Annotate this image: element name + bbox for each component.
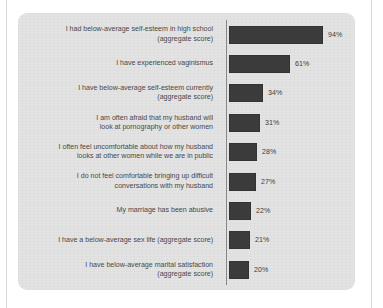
bar-value-label: 61%	[295, 60, 309, 68]
bar-row: I have a below-average sex life (aggrega…	[18, 226, 355, 255]
bar-value-label: 94%	[328, 31, 342, 39]
bar-container: 31%	[220, 108, 355, 137]
bar-container: 61%	[220, 49, 355, 78]
category-label: I am often afraid that my husband will l…	[18, 114, 220, 132]
bar-value-label: 21%	[255, 236, 269, 244]
page-border-right	[371, 0, 372, 308]
bar-value-label: 22%	[256, 207, 270, 215]
category-label: My marriage has been abusive	[18, 206, 220, 215]
bar-row: I have experienced vaginismus 61%	[18, 49, 355, 78]
bar-container: 22%	[220, 196, 355, 225]
category-label: I do not feel comfortable bringing up di…	[18, 172, 220, 190]
bar-value-label: 27%	[261, 178, 275, 186]
bar-row: My marriage has been abusive 22%	[18, 196, 355, 225]
bar-value-label: 34%	[268, 89, 282, 97]
bar-segment	[229, 202, 251, 220]
page-background: I had below-average self-esteem in high …	[0, 0, 383, 308]
category-label: I have a below-average sex life (aggrega…	[18, 236, 220, 245]
bar-row: I have below-average self-esteem current…	[18, 79, 355, 108]
page-border-left	[6, 0, 7, 308]
bar-segment	[229, 173, 256, 191]
category-label: I have below-average marital satisfactio…	[18, 261, 220, 279]
bar-rows: I had below-average self-esteem in high …	[18, 20, 355, 285]
category-label: I had below-average self-esteem in high …	[18, 25, 220, 43]
bar-value-label: 20%	[254, 266, 268, 274]
bar-segment	[229, 143, 257, 161]
bar-chart-plot-area: I had below-average self-esteem in high …	[18, 13, 355, 290]
bar-container: 28%	[220, 138, 355, 167]
bar-row: I do not feel comfortable bringing up di…	[18, 167, 355, 196]
bar-segment	[229, 261, 249, 279]
bar-value-label: 31%	[265, 119, 279, 127]
bar-segment	[229, 26, 323, 44]
bar-container: 20%	[220, 255, 355, 284]
bar-row: I had below-average self-esteem in high …	[18, 20, 355, 49]
bar-container: 94%	[220, 20, 355, 49]
bar-row: I have below-average marital satisfactio…	[18, 255, 355, 284]
bar-segment	[229, 84, 263, 102]
category-label: I often feel uncomfortable about how my …	[18, 143, 220, 161]
bar-row: I often feel uncomfortable about how my …	[18, 138, 355, 167]
category-label: I have experienced vaginismus	[18, 59, 220, 68]
bar-container: 27%	[220, 167, 355, 196]
bar-segment	[229, 231, 250, 249]
bar-row: I am often afraid that my husband will l…	[18, 108, 355, 137]
bar-segment	[229, 114, 260, 132]
category-label: I have below-average self-esteem current…	[18, 84, 220, 102]
chart-panel: I had below-average self-esteem in high …	[18, 13, 355, 290]
bar-value-label: 28%	[262, 148, 276, 156]
bar-container: 34%	[220, 79, 355, 108]
bar-segment	[229, 55, 290, 73]
bar-container: 21%	[220, 226, 355, 255]
